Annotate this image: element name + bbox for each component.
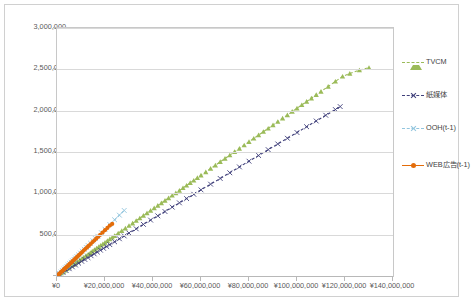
series-4 xyxy=(57,222,114,276)
x-axis-tick-mark xyxy=(200,277,201,281)
gridline xyxy=(57,276,393,277)
x-axis-tick-mark xyxy=(344,277,345,281)
x-axis-tick-mark xyxy=(392,277,393,281)
legend-item-label: OOH(t-1) xyxy=(424,123,456,133)
x-axis-tick-mark xyxy=(248,277,249,281)
chart-container: 0500,0001,000,0001,500,0002,000,0002,500… xyxy=(13,13,452,290)
chart-outer-frame: 0500,0001,000,0001,500,0002,000,0002,500… xyxy=(4,4,459,297)
legend-marker-icon xyxy=(402,58,424,67)
x-axis-tick-mark xyxy=(104,277,105,281)
gridline xyxy=(57,193,393,194)
x-axis-tick-mark xyxy=(56,277,57,281)
gridline xyxy=(57,152,393,153)
x-axis-tick-label: ¥140,000,000 xyxy=(352,281,432,290)
legend-item-3[interactable]: OOH(t-1) xyxy=(402,123,474,133)
legend-item-4[interactable]: WEB広告(t-1) xyxy=(402,160,474,170)
plot-area xyxy=(56,27,394,277)
legend-item-label: TVCM xyxy=(424,57,447,67)
legend-item-2[interactable]: 紙媒体 xyxy=(402,90,474,100)
x-axis-tick-mark xyxy=(296,277,297,281)
legend-item-label: WEB広告(t-1) xyxy=(424,160,470,170)
legend-marker-icon xyxy=(402,124,424,133)
gridline xyxy=(57,111,393,112)
gridline xyxy=(57,69,393,70)
legend-item-1[interactable]: TVCM xyxy=(402,57,474,67)
legend-marker-icon xyxy=(402,91,424,100)
x-axis-tick-mark xyxy=(152,277,153,281)
legend-item-label: 紙媒体 xyxy=(424,90,447,100)
series-2 xyxy=(57,104,342,276)
gridline xyxy=(57,28,393,29)
gridline xyxy=(57,235,393,236)
legend-marker-icon xyxy=(402,161,424,170)
